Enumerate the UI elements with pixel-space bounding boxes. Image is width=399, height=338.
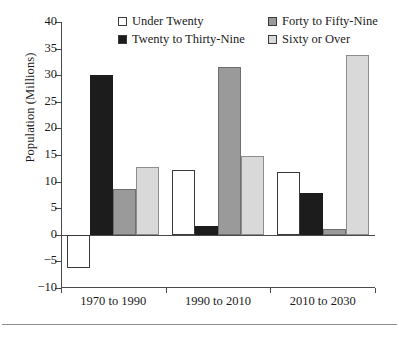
- x-axis-category-label: 1970 to 1990: [61, 294, 166, 309]
- bar: [90, 75, 113, 235]
- y-tick-label: 30: [45, 67, 58, 82]
- bar: [195, 226, 218, 235]
- bar: [113, 189, 136, 235]
- x-axis-category-label: 1990 to 2010: [166, 294, 271, 309]
- bar: [241, 156, 264, 235]
- y-tick-label: 20: [45, 120, 58, 135]
- bar: [172, 170, 195, 234]
- x-axis-line: [61, 287, 375, 288]
- x-tick-mark: [375, 288, 376, 293]
- y-tick-label: 25: [45, 94, 58, 109]
- y-tick-label: −10: [37, 280, 57, 295]
- y-axis-line: [61, 22, 62, 288]
- plot-area: 4035302520151050−5−10: [61, 22, 375, 288]
- y-tick-label: 15: [45, 147, 58, 162]
- x-tick-mark: [61, 288, 62, 293]
- bar: [323, 229, 346, 235]
- x-tick-mark: [166, 288, 167, 293]
- y-tick-label: 10: [45, 174, 58, 189]
- bottom-divider: [2, 324, 397, 325]
- x-axis-category-label: 2010 to 2030: [270, 294, 375, 309]
- bar: [218, 67, 241, 235]
- bar: [346, 55, 369, 235]
- y-axis-title: Population (Millions): [23, 18, 38, 198]
- bar: [136, 167, 159, 235]
- y-tick-label: 40: [45, 14, 58, 29]
- y-tick-label: 0: [51, 227, 57, 242]
- x-tick-mark: [270, 288, 271, 293]
- bar: [300, 193, 323, 234]
- y-tick-label: 35: [45, 41, 58, 56]
- bar: [277, 172, 300, 235]
- y-tick-label: −5: [44, 253, 57, 268]
- bar-chart-figure: Population (Millions) Under Twenty Forty…: [0, 0, 399, 338]
- bar: [67, 235, 90, 268]
- zero-baseline: [61, 235, 375, 236]
- y-tick-label: 5: [51, 200, 57, 215]
